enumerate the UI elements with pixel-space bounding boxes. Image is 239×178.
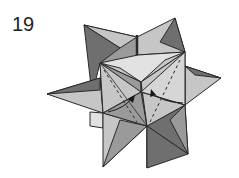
- origami-star-diagram: [0, 0, 239, 178]
